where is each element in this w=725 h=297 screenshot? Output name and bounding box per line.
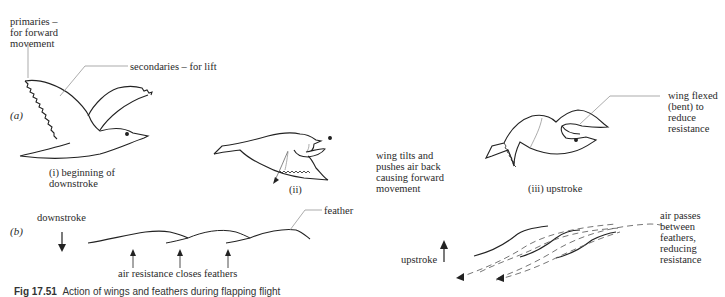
diagram-artwork bbox=[0, 0, 725, 297]
feathers-open-drawing bbox=[474, 226, 616, 258]
upstroke-label: upstroke bbox=[401, 254, 437, 265]
arrow-up-icon bbox=[130, 249, 231, 268]
bird-downstroke-drawing bbox=[20, 80, 152, 158]
stage-i-label: (i) beginning of downstroke bbox=[49, 167, 115, 189]
upstroke-arrow-icon bbox=[440, 240, 448, 262]
stage-ii-label: (ii) bbox=[289, 184, 302, 195]
part-a-marker: (a) bbox=[10, 109, 23, 121]
feathers-closed-drawing bbox=[88, 229, 310, 243]
wing-tilts-label: wing tilts and pushes air back causing f… bbox=[376, 150, 444, 194]
stage-iii-label: (iii) upstroke bbox=[528, 183, 583, 194]
figure-caption-text: Action of wings and feathers during flap… bbox=[62, 286, 280, 297]
part-b-marker: (b) bbox=[10, 225, 23, 237]
bird-midstroke-drawing bbox=[214, 133, 331, 180]
downstroke-label: downstroke bbox=[37, 212, 86, 223]
figure-number: Fig 17.51 bbox=[14, 286, 57, 297]
secondaries-label: secondaries – for lift bbox=[130, 61, 217, 72]
feather-label: feather bbox=[324, 205, 353, 216]
primaries-label: primaries – for forward movement bbox=[10, 16, 58, 49]
air-passes-label: air passes between feathers, reducing re… bbox=[660, 210, 701, 265]
dashed-airflow-arrow-icon bbox=[458, 224, 668, 280]
air-resistance-label: air resistance closes feathers bbox=[118, 268, 237, 279]
arrow-down-icon bbox=[58, 232, 66, 252]
wing-flexed-label: wing flexed (bent) to reduce resistance bbox=[668, 90, 718, 134]
figure-caption: Fig 17.51 Action of wings and feathers d… bbox=[14, 286, 280, 297]
bird-upstroke-drawing bbox=[486, 110, 608, 167]
